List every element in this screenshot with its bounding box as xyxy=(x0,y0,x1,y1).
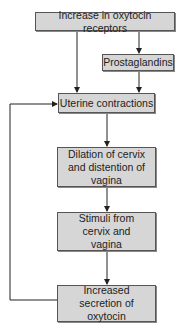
node-stimuli: Stimuli from cervix and vagina xyxy=(57,212,156,251)
node-oxytocin-receptors: Increase in oxytocin receptors xyxy=(35,12,175,31)
node-prostaglandins: Prostaglandins xyxy=(102,54,174,71)
node-uterine-contractions: Uterine contractions xyxy=(58,93,155,113)
node-label: Prostaglandins xyxy=(103,56,172,69)
node-dilation-distention: Dilation of cervix and distention of vag… xyxy=(57,147,156,187)
node-label: Uterine contractions xyxy=(60,97,153,110)
node-increased-secretion: Increased secretion of oxytocin xyxy=(57,285,156,322)
node-label: Dilation of cervix and distention of vag… xyxy=(64,148,149,187)
node-label: Increase in oxytocin receptors xyxy=(36,9,174,35)
node-label: Stimuli from cervix and vagina xyxy=(68,212,145,251)
node-label: Increased secretion of oxytocin xyxy=(64,284,149,323)
